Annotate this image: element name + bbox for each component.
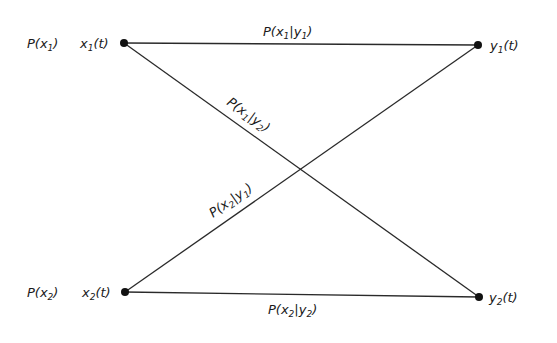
edge-label-x1-y1: P(x1|y1) (263, 24, 312, 41)
signal-label-y1: y1(t) (489, 38, 519, 55)
prob-label-x1: P(x1) (27, 36, 58, 53)
channel-diagram: P(x1) x1(t) P(x2) x2(t) y1(t) y2(t) P(x1… (0, 0, 557, 343)
signal-label-y2: y2(t) (488, 290, 518, 307)
edge-label-x2-y1: P(x2|y1) (206, 180, 256, 222)
node-y2 (475, 293, 483, 301)
signal-label-x1: x1(t) (79, 36, 109, 53)
edge-x2-y2 (125, 292, 479, 297)
node-y1 (474, 41, 482, 49)
signal-label-x2: x2(t) (81, 285, 111, 302)
edge-label-x1-y2: P(x1|y2) (223, 94, 273, 136)
edge-x1-y1 (124, 43, 478, 45)
node-x2 (121, 288, 129, 296)
prob-label-x2: P(x2) (27, 285, 58, 302)
node-x1 (120, 39, 128, 47)
edge-label-x2-y2: P(x2|y2) (268, 302, 317, 319)
